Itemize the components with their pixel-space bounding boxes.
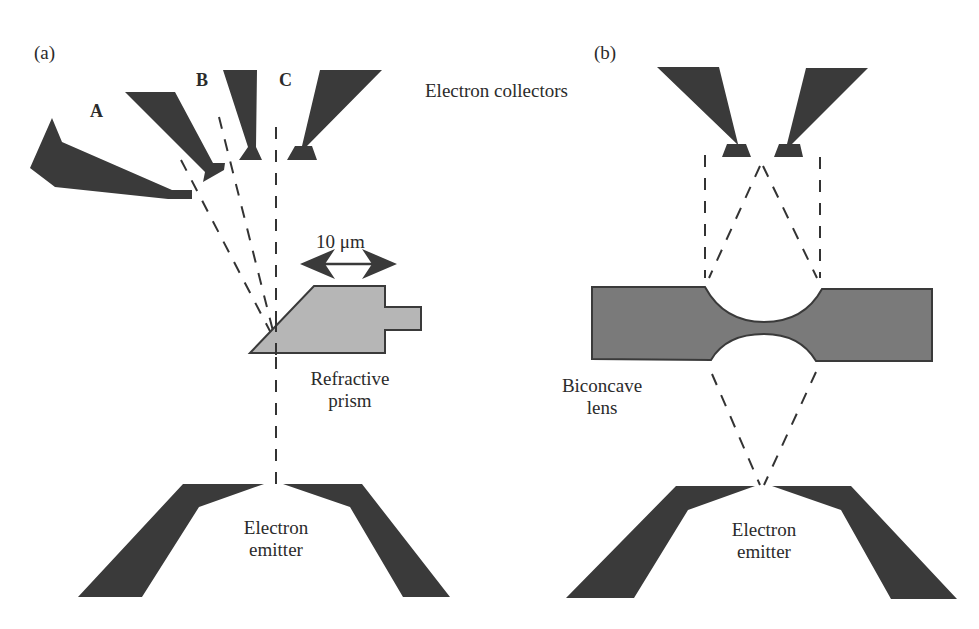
collector-a-upper bbox=[125, 92, 225, 182]
collector-c bbox=[287, 70, 382, 160]
electron-collectors-label: Electron collectors bbox=[425, 80, 568, 102]
lens-label-line2: lens bbox=[552, 397, 652, 419]
beam-b-lower-right bbox=[764, 372, 816, 485]
beam-b-cross-left bbox=[709, 166, 760, 278]
emitter-a-label: Electron emitter bbox=[226, 517, 326, 561]
collector-label-a: A bbox=[90, 100, 103, 122]
emitter-b-label: Electron emitter bbox=[714, 519, 814, 563]
beam-path-a bbox=[181, 160, 272, 335]
lens-label-line1: Biconcave bbox=[552, 375, 652, 397]
collector-label-b: B bbox=[196, 69, 208, 91]
collector-b-left bbox=[657, 67, 751, 157]
prism-label-line2: prism bbox=[300, 390, 400, 412]
collector-b bbox=[223, 70, 262, 160]
panel-a-label: (a) bbox=[34, 42, 55, 64]
collector-b-right bbox=[774, 68, 868, 157]
emitter-b-label-line2: emitter bbox=[714, 541, 814, 563]
emitter-a-label-line1: Electron bbox=[226, 517, 326, 539]
lens-label: Biconcave lens bbox=[552, 375, 652, 419]
prism-label-line1: Refractive bbox=[300, 368, 400, 390]
scale-bar-label: 10 μm bbox=[316, 231, 365, 253]
collector-label-c: C bbox=[279, 69, 292, 91]
emitter-a-label-line2: emitter bbox=[226, 539, 326, 561]
emitter-b-label-line1: Electron bbox=[714, 519, 814, 541]
prism-label: Refractive prism bbox=[300, 368, 400, 412]
biconcave-lens bbox=[592, 287, 932, 361]
beam-b-cross-right bbox=[763, 166, 817, 278]
beam-b-lower-left bbox=[712, 374, 760, 485]
panel-b-label: (b) bbox=[594, 42, 616, 64]
